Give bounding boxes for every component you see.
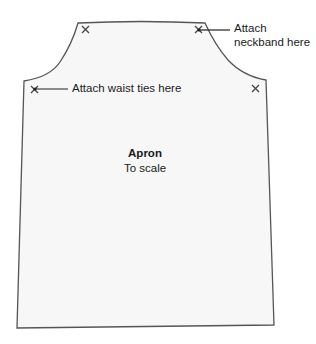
waist-leader-dot [33,87,36,90]
waist-ties-label: Attach waist ties here [72,81,181,95]
neckband-label-line2: neckband here [234,35,310,49]
diagram-title: Apron [100,146,190,161]
diagram-subtitle: To scale [100,161,190,176]
neckband-leader-dot [197,28,200,31]
neckband-label-line1: Attach [234,21,267,35]
